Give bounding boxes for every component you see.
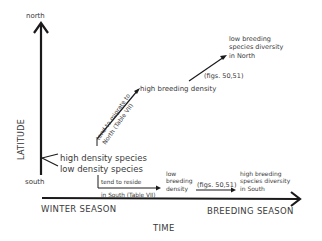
latitude-axis-arrow bbox=[34, 23, 48, 175]
latitude-label: LATITUDE bbox=[18, 119, 26, 160]
north-outcome-label: low breeding species diversity in North bbox=[229, 35, 283, 60]
south-outcome-label: high breeding species diversity in South bbox=[240, 170, 290, 192]
high-breeding-density-label: high breeding density bbox=[140, 85, 216, 93]
time-label: TIME bbox=[153, 224, 175, 233]
high-density-species-label: high density species bbox=[60, 153, 147, 163]
north-figs-label: (figs. 50,51) bbox=[204, 72, 243, 80]
reside-south-line2: in South (Table VII) bbox=[101, 191, 156, 199]
south-label: south bbox=[25, 178, 45, 186]
low-density-species-label: low density species bbox=[60, 164, 143, 174]
south-figs-label: (figs. 50,51) bbox=[197, 181, 236, 189]
breeding-season-label: BREEDING SEASON bbox=[207, 207, 294, 216]
diagram-canvas: north south LATITUDE WINTER SEASON BREED… bbox=[0, 0, 322, 241]
winter-season-label: WINTER SEASON bbox=[41, 205, 116, 214]
reside-south-line1: tend to reside bbox=[101, 178, 141, 186]
species-split-marker bbox=[42, 154, 58, 166]
north-label: north bbox=[26, 12, 45, 20]
low-breeding-density-label: low breeding density bbox=[166, 170, 193, 192]
